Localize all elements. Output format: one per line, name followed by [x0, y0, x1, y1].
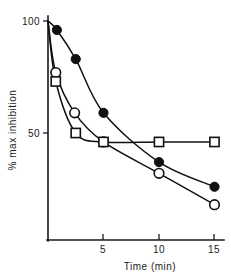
x-tick-label-5: 5 — [100, 244, 106, 255]
data-point-filled-circle — [52, 25, 61, 34]
x-axis-title: Time (min) — [124, 261, 176, 272]
data-point-filled-circle — [154, 158, 163, 167]
x-tick-label-15: 15 — [208, 244, 220, 255]
data-point-open-circle — [51, 68, 61, 78]
data-point-filled-circle — [71, 54, 80, 63]
data-point-filled-circle — [99, 108, 108, 117]
y-axis-title: % max inhibition — [7, 90, 18, 171]
data-point-filled-circle — [210, 182, 219, 191]
series-line-open-square — [48, 21, 215, 143]
x-tick-label-10: 10 — [153, 244, 165, 255]
y-tick-label-50: 50 — [28, 128, 40, 139]
data-point-open-square — [51, 77, 60, 86]
chart-plot-area: 100 50 5 10 15 Time (min) % max inhibiti… — [0, 0, 231, 278]
y-tick-label-100: 100 — [22, 16, 40, 27]
data-point-open-circle — [210, 200, 220, 210]
series-layer — [48, 21, 219, 209]
data-point-open-circle — [70, 108, 80, 118]
data-point-open-square — [154, 137, 163, 146]
data-point-open-square — [99, 137, 108, 146]
data-point-open-square — [210, 137, 219, 146]
data-point-open-circle — [154, 169, 164, 179]
series-line-filled-circle — [48, 21, 215, 187]
data-point-open-square — [71, 128, 80, 137]
chart-figure: 100 50 5 10 15 Time (min) % max inhibiti… — [0, 0, 231, 278]
